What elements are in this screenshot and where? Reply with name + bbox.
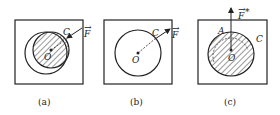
radius-line [138,38,156,53]
point-label: C [152,28,159,38]
center-label: O [132,55,140,65]
caption: (c) [224,97,236,107]
force-suffix: * [245,7,250,17]
panel-a: O C F → (a) [15,20,92,107]
figure: O C F → (a) O C F → (b) O A C F → * (c) [0,0,280,115]
center-point [230,49,233,52]
panel-c: O A C F → * (c) [198,4,267,107]
caption: (a) [38,97,50,107]
point-label: A [217,26,225,36]
panel-b: O C F → (b) [104,20,180,107]
caption: (b) [130,97,143,107]
center-label: O [228,53,236,63]
force-vector-marker: → [84,22,92,32]
center-label: O [44,52,52,62]
region-label: C [256,34,263,44]
force-vector-marker: → [172,23,180,33]
point-label: C [63,27,70,37]
